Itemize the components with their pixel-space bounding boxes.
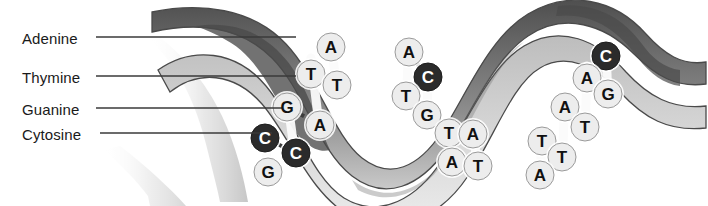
dna-double-helix-figure: AdenineThymineGuanineCytosine ATTGACCGAC…: [0, 0, 708, 206]
base-circle-c: [282, 139, 310, 167]
legend-label-cytosine: Cytosine: [22, 126, 81, 143]
legend-label-adenine: Adenine: [22, 30, 78, 47]
base-circle-a: [306, 111, 334, 139]
legend-label-guanine: Guanine: [22, 101, 79, 118]
base-circle-a: [459, 120, 487, 148]
base-circle-a: [526, 161, 554, 189]
base-circle-g: [273, 93, 301, 121]
base-circle-g: [254, 158, 282, 186]
base-circle-t: [464, 152, 492, 180]
base-circle-c: [251, 124, 279, 152]
base-circle-a: [317, 33, 345, 61]
base-circle-a: [395, 38, 423, 66]
base-circle-g: [594, 80, 622, 108]
base-circle-t: [297, 60, 325, 88]
base-circle-t: [571, 113, 599, 141]
base-circle-t: [323, 71, 351, 99]
base-circle-a: [438, 148, 466, 176]
legend-label-thymine: Thymine: [22, 69, 80, 86]
helix-illustration: [0, 0, 708, 206]
